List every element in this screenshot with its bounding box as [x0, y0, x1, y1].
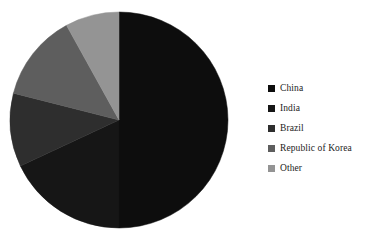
pie-slice-china[interactable]: [119, 12, 228, 228]
legend-item-other[interactable]: Other: [268, 158, 376, 178]
legend-swatch-icon: [268, 145, 275, 152]
legend-item-label: Brazil: [280, 123, 304, 133]
legend-swatch-icon: [268, 105, 275, 112]
pie-chart: [0, 0, 240, 248]
chart-legend: ChinaIndiaBrazilRepublic of KoreaOther: [268, 78, 376, 178]
legend-item-brazil[interactable]: Brazil: [268, 118, 376, 138]
legend-item-label: India: [280, 103, 300, 113]
legend-item-label: China: [280, 83, 303, 93]
pie-chart-svg: [0, 0, 240, 248]
legend-item-china[interactable]: China: [268, 78, 376, 98]
pie-chart-screenshot: ChinaIndiaBrazilRepublic of KoreaOther: [0, 0, 376, 248]
legend-swatch-icon: [268, 165, 275, 172]
legend-swatch-icon: [268, 125, 275, 132]
legend-item-label: Republic of Korea: [280, 143, 352, 153]
pie-slice-group: [10, 12, 228, 228]
legend-swatch-icon: [268, 85, 275, 92]
legend-item-label: Other: [280, 163, 302, 173]
legend-item-republic-of-korea[interactable]: Republic of Korea: [268, 138, 376, 158]
legend-item-india[interactable]: India: [268, 98, 376, 118]
